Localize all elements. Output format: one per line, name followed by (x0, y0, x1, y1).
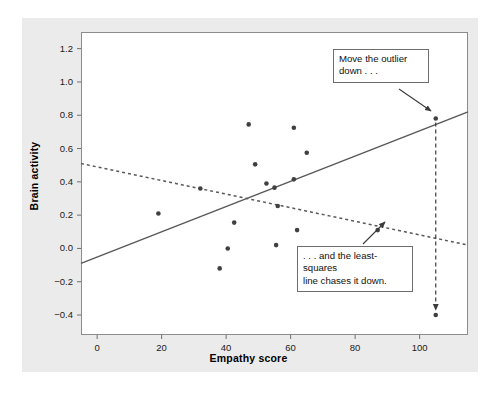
data-point (246, 122, 251, 127)
data-point (156, 211, 161, 216)
y-tick-label: 0.6 (39, 143, 73, 154)
data-point (217, 266, 222, 271)
data-point (295, 228, 300, 233)
moved-data-point (433, 313, 438, 318)
y-tick-label: 0.0 (39, 242, 73, 253)
data-point (292, 177, 297, 182)
regression-line (81, 164, 468, 246)
data-point (292, 125, 297, 130)
data-point (253, 162, 258, 167)
x-axis-title: Empathy score (0, 352, 497, 364)
callout-least-squares: . . . and the least-squares line chases … (297, 246, 413, 292)
data-point (232, 220, 237, 225)
data-point (198, 186, 203, 191)
callout-leader-lines (363, 89, 431, 244)
data-point (272, 185, 277, 190)
y-axis-title: Brain activity (28, 116, 40, 236)
y-tick-label: 0.2 (39, 209, 73, 220)
data-point (433, 116, 438, 121)
data-point (304, 150, 309, 155)
y-tick-label: 1.2 (39, 43, 73, 54)
y-tick-label: −0.2 (39, 276, 73, 287)
callout-leader (363, 222, 385, 244)
y-tick-label: 1.0 (39, 76, 73, 87)
data-point (264, 181, 269, 186)
data-point (375, 228, 380, 233)
axis-ticks (77, 49, 420, 339)
data-point (225, 246, 230, 251)
y-tick-label: 0.8 (39, 109, 73, 120)
data-point (274, 243, 279, 248)
callout-leader (399, 89, 431, 111)
scatter-plot-figure: −0.4−0.20.00.20.40.60.81.01.2 0204060801… (0, 0, 497, 399)
y-tick-label: −0.4 (39, 309, 73, 320)
data-point (275, 204, 280, 209)
y-tick-label: 0.4 (39, 176, 73, 187)
callout-move-outlier: Move the outlier down . . . (333, 49, 429, 83)
